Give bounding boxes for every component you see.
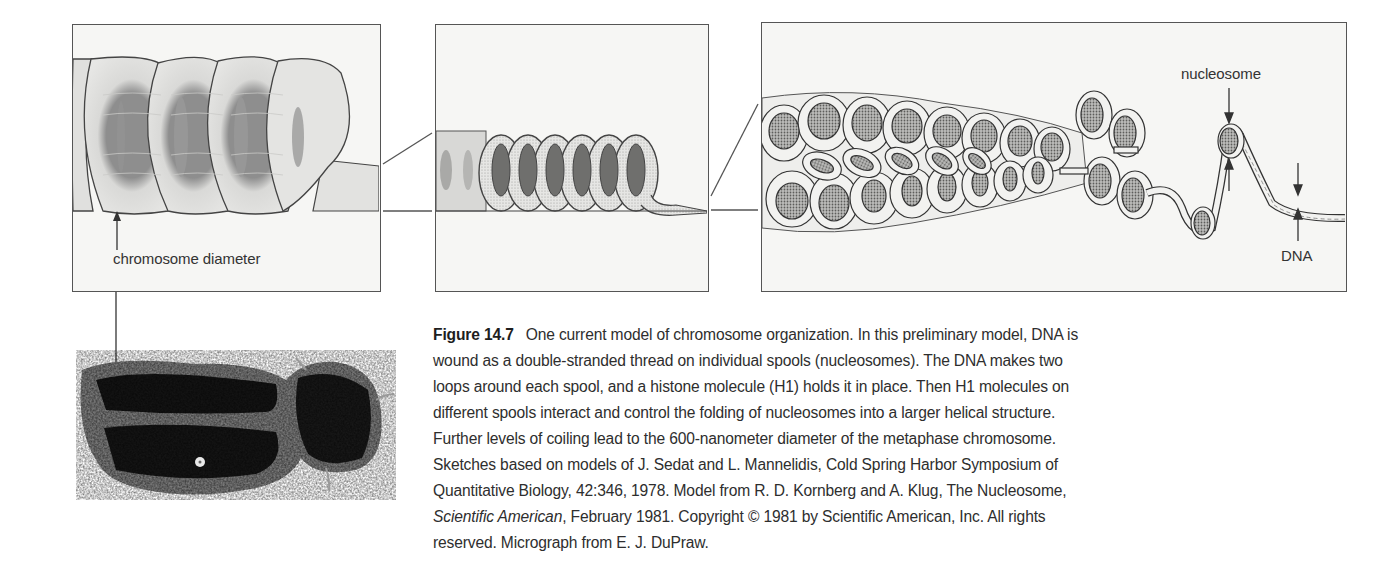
caption-line: Quantitative Biology, 42:346, 1978. Mode… (433, 478, 1393, 504)
panel-nucleosome-fiber: nucleosome DNA (761, 22, 1347, 292)
caption-line: Further levels of coiling lead to the 60… (433, 426, 1393, 452)
panel-chromosome-coil: chromosome diameter (72, 24, 381, 292)
figure-number: Figure 14.7 (433, 326, 514, 343)
caption-text: One current model of chromosome organiza… (526, 326, 1078, 343)
nucleosome-fiber-drawing (762, 23, 1345, 290)
caption-line: Figure 14.7One current model of chromoso… (433, 322, 1393, 348)
caption-line: loops around each spool, and a histone m… (433, 374, 1393, 400)
caption-line: different spools interact and control th… (433, 400, 1393, 426)
dna-label: DNA (1281, 247, 1312, 264)
chromosome-diameter-label: chromosome diameter (113, 250, 260, 267)
panel-solenoid-coil (435, 24, 709, 292)
chromosome-micrograph (76, 350, 396, 500)
solenoid-coil-drawing (436, 25, 707, 290)
caption-line: Scientific American, February 1981. Copy… (433, 504, 1393, 530)
caption-line: reserved. Micrograph from E. J. DuPraw. (433, 530, 1393, 556)
caption-line: wound as a double-stranded thread on ind… (433, 348, 1393, 374)
caption-text: , February 1981. Copyright © 1981 by Sci… (562, 508, 1045, 525)
figure-caption: Figure 14.7One current model of chromoso… (433, 322, 1393, 556)
journal-title: Scientific American (433, 508, 562, 525)
nucleosome-label: nucleosome (1181, 65, 1261, 82)
caption-line: Sketches based on models of J. Sedat and… (433, 452, 1393, 478)
